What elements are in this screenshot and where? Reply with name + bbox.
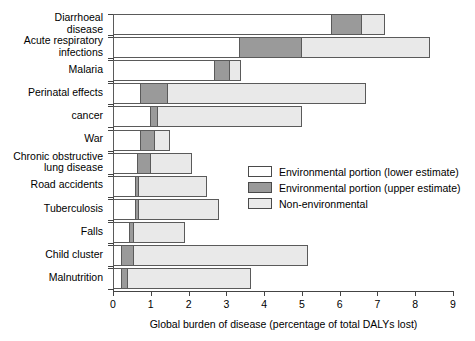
bar-segment-non-environmental — [134, 222, 185, 243]
y-axis-label: cancer — [0, 110, 103, 122]
bar-segment-non-environmental — [151, 153, 193, 174]
bar-segment-upper-estimate — [240, 37, 302, 58]
legend-label: Non-environmental — [279, 198, 368, 210]
bar-segment-non-environmental — [155, 130, 170, 151]
legend-label: Environmental portion (upper estimate) — [279, 182, 461, 194]
x-axis-tick-label: 7 — [367, 298, 387, 310]
bar-segment-lower-estimate — [113, 222, 130, 243]
x-axis-line — [113, 291, 454, 292]
bar-segment-upper-estimate — [215, 60, 230, 81]
y-axis-tick — [108, 174, 113, 175]
legend-label: Environmental portion (lower estimate) — [279, 166, 459, 178]
x-axis-title: Global burden of disease (percentage of … — [113, 318, 454, 330]
bar-segment-lower-estimate — [113, 60, 215, 81]
x-axis-tick — [302, 291, 303, 296]
bar-segment-non-environmental — [230, 60, 241, 81]
bar-segment-non-environmental — [134, 245, 308, 266]
bar-segment-upper-estimate — [332, 14, 362, 35]
y-axis-label: Falls — [0, 226, 103, 238]
x-axis-tick — [415, 291, 416, 296]
y-axis-tick — [108, 243, 113, 244]
y-axis-tick — [108, 266, 113, 267]
x-axis-tick-label: 8 — [405, 298, 425, 310]
y-axis-tick — [108, 81, 113, 82]
bar-segment-non-environmental — [158, 106, 302, 127]
y-axis-label: Road accidents — [0, 179, 103, 191]
x-axis-tick-label: 6 — [330, 298, 350, 310]
y-axis-label: Child cluster — [0, 249, 103, 261]
x-axis-tick-label: 4 — [254, 298, 274, 310]
y-axis-tick — [108, 197, 113, 198]
bar-segment-upper-estimate — [151, 106, 159, 127]
bar-segment-lower-estimate — [113, 14, 332, 35]
y-axis-tick — [108, 289, 113, 290]
bar-segment-upper-estimate — [122, 245, 133, 266]
bar-segment-lower-estimate — [113, 106, 151, 127]
bar-segment-lower-estimate — [113, 268, 122, 289]
bar-segment-non-environmental — [168, 83, 366, 104]
x-axis-tick — [151, 291, 152, 296]
bar-segment-non-environmental — [139, 199, 218, 220]
x-axis-tick — [113, 291, 114, 296]
x-axis-tick-label: 0 — [103, 298, 123, 310]
legend-item[interactable]: Non-environmental — [248, 196, 461, 211]
x-axis-tick-label: 5 — [292, 298, 312, 310]
y-axis-label: War — [0, 133, 103, 145]
bar-segment-non-environmental — [302, 37, 430, 58]
y-axis-label: Diarrhoeal disease — [0, 12, 103, 35]
y-axis-label: Perinatal effects — [0, 87, 103, 99]
bar-segment-upper-estimate — [141, 83, 167, 104]
x-axis-tick-label: 9 — [443, 298, 463, 310]
y-axis-label: Malaria — [0, 64, 103, 76]
x-axis-tick — [377, 291, 378, 296]
x-axis-tick-label: 2 — [179, 298, 199, 310]
y-axis-label: Tuberculosis — [0, 203, 103, 215]
bar-segment-lower-estimate — [113, 199, 136, 220]
y-axis-label: Acute respiratory infections — [0, 35, 103, 58]
y-axis-tick — [108, 35, 113, 36]
bar-segment-lower-estimate — [113, 83, 141, 104]
legend-swatch-non-environmental — [248, 198, 272, 209]
x-axis-tick — [189, 291, 190, 296]
bar-segment-non-environmental — [362, 14, 385, 35]
bar-segment-non-environmental — [128, 268, 251, 289]
bar-segment-non-environmental — [139, 176, 207, 197]
y-axis-label: Chronic obstructive lung disease — [0, 151, 103, 174]
x-axis-tick — [453, 291, 454, 296]
bar-segment-lower-estimate — [113, 153, 138, 174]
bar-segment-lower-estimate — [113, 37, 240, 58]
x-axis-tick — [264, 291, 265, 296]
y-axis-tick — [108, 151, 113, 152]
chart-legend: Environmental portion (lower estimate) E… — [244, 162, 465, 215]
chart-figure: Diarrhoeal diseaseAcute respiratory infe… — [0, 0, 475, 341]
y-axis-tick — [108, 127, 113, 128]
bar-segment-lower-estimate — [113, 130, 141, 151]
bar-segment-upper-estimate — [138, 153, 151, 174]
x-axis-tick-label: 3 — [216, 298, 236, 310]
y-axis-label: Malnutrition — [0, 272, 103, 284]
y-axis-tick — [108, 58, 113, 59]
legend-swatch-upper-estimate — [248, 182, 272, 193]
bar-segment-upper-estimate — [141, 130, 154, 151]
bar-segment-lower-estimate — [113, 176, 136, 197]
legend-item[interactable]: Environmental portion (lower estimate) — [248, 164, 461, 179]
x-axis-tick-label: 1 — [141, 298, 161, 310]
y-axis-tick — [108, 104, 113, 105]
bar-segment-lower-estimate — [113, 245, 122, 266]
x-axis-tick — [226, 291, 227, 296]
y-axis-tick — [108, 220, 113, 221]
x-axis-tick — [340, 291, 341, 296]
legend-swatch-lower-estimate — [248, 166, 272, 177]
legend-item[interactable]: Environmental portion (upper estimate) — [248, 180, 461, 195]
